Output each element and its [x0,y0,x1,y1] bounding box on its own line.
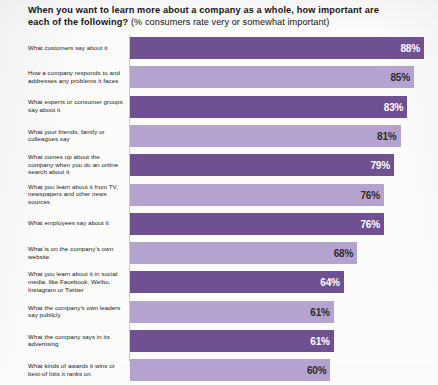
bar: 85% [130,66,414,88]
chart-row: What your friends, family or colleagues … [0,122,438,151]
bar-value-label: 76% [360,189,379,200]
bar: 76% [130,213,384,235]
bar-value-label: 68% [334,248,353,259]
bar: 61% [130,301,334,323]
bar: 88% [130,37,424,59]
bar: 68% [130,242,357,264]
bar-value-label: 60% [307,365,326,376]
bar: 60% [130,359,330,381]
bar: 64% [130,271,344,293]
category-label: What is on the company's own website [28,245,126,260]
chart-row: How a company responds to and addresses … [0,63,438,92]
category-label: What experts or consumer groups say abou… [28,98,126,113]
bar-value-label: 61% [310,336,329,347]
bar-value-label: 88% [400,43,419,54]
bar-value-label: 81% [377,130,396,141]
bar: 81% [130,125,401,147]
chart-row: What employees say about it76% [0,210,438,239]
bar-value-label: 76% [360,218,379,229]
category-label: What the company's own leaders say publi… [28,304,126,319]
bar: 79% [130,154,394,176]
bar-value-label: 61% [310,306,329,317]
chart-row: What the company's own leaders say publi… [0,298,438,327]
bar: 83% [130,96,407,118]
bar-value-label: 85% [390,72,409,83]
bar: 61% [130,330,334,352]
bar-value-label: 79% [370,160,389,171]
category-label: What your friends, family or colleagues … [28,128,126,143]
category-label: What you learn about it from TV, newspap… [28,183,126,206]
category-label: What kinds of awards it wins or best-of … [28,362,126,377]
chart-row: What you learn about it in social media,… [0,268,438,297]
category-label: What comes up about the company when you… [28,153,126,176]
chart-row: What customers say about it88% [0,34,438,63]
chart-row: What experts or consumer groups say abou… [0,93,438,122]
category-label: What customers say about it [28,44,126,52]
category-label: What the company says in its advertising [28,333,126,348]
chart-row: What comes up about the company when you… [0,151,438,180]
chart-row: What kinds of awards it wins or best-of … [0,356,438,385]
category-label: What you learn about it in social media,… [28,270,126,293]
bar: 76% [130,184,384,206]
category-label: What employees say about it [28,219,126,227]
chart-row: What the company says in its advertising… [0,327,438,356]
chart-row: What you learn about it from TV, newspap… [0,181,438,210]
category-label: How a company responds to and addresses … [28,69,126,84]
bar-value-label: 64% [320,277,339,288]
bar-value-label: 83% [384,101,403,112]
chart-row: What is on the company's own website68% [0,239,438,268]
